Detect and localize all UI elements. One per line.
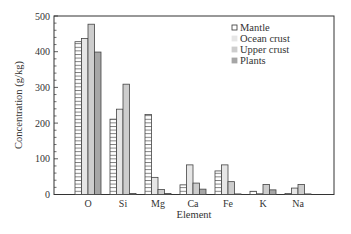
y-tick-label: 300 [35,82,50,93]
legend-label: Ocean crust [240,33,290,44]
legend-swatch [232,47,237,52]
y-tick-label: 400 [35,46,50,57]
bar-plants-O [95,52,102,194]
bar-mantle-Si [110,119,117,194]
bar-plants-K [270,190,277,195]
y-tick-label: 500 [35,11,50,22]
bar-upper-crust-Na [298,185,305,195]
x-tick-label: Mg [151,198,165,209]
bar-mantle-Mg [145,115,152,195]
x-tick-label: K [259,198,267,209]
bar-upper-crust-Mg [158,190,165,195]
bar-upper-crust-O [88,24,95,194]
bar-upper-crust-Ca [193,183,200,194]
bar-mantle-O [75,42,82,195]
bar-ocean-crust-O [82,38,89,194]
x-tick-label: Fe [223,198,234,209]
y-axis: 0100200300400500 [35,11,58,201]
bar-mantle-K [250,191,257,194]
x-tick-label: O [84,198,91,209]
bar-upper-crust-Si [123,84,130,194]
x-axis: OSiMgCaFeKNa [84,198,304,209]
bar-ocean-crust-K [257,194,264,195]
bar-ocean-crust-Si [117,109,124,194]
y-tick-label: 100 [35,153,50,164]
bar-ocean-crust-Fe [222,165,229,195]
bar-upper-crust-Fe [228,182,235,195]
legend-swatch [232,25,237,30]
bar-plants-Ca [200,189,207,194]
bar-mantle-Na [285,193,292,194]
x-tick-label: Si [119,198,128,209]
legend-label: Mantle [240,22,270,33]
bar-upper-crust-K [263,185,270,195]
bar-plants-Na [305,194,312,195]
bar-ocean-crust-Ca [187,165,194,195]
bar-mantle-Fe [215,171,222,195]
bar-ocean-crust-Mg [152,177,159,194]
bar-plants-Mg [165,193,172,194]
legend-swatch [232,36,237,41]
x-tick-label: Ca [187,198,199,209]
bar-plants-Fe [235,194,242,195]
x-tick-label: Na [292,198,304,209]
bar-chart: 0100200300400500 OSiMgCaFeKNa Concentrat… [0,0,351,234]
bar-ocean-crust-Na [292,188,299,194]
legend-label: Upper crust [240,44,289,55]
x-axis-title: Element [177,209,212,220]
legend-label: Plants [240,55,266,66]
legend: MantleOcean crustUpper crustPlants [232,22,290,66]
y-tick-label: 0 [45,189,50,200]
bar-mantle-Ca [180,185,187,195]
legend-swatch [232,58,237,63]
y-tick-label: 200 [35,118,50,129]
y-axis-title: Concentration (g/kg) [13,61,25,149]
bar-plants-Si [130,193,137,194]
